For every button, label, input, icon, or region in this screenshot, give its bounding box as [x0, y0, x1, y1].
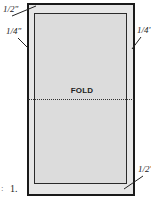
- step-prefix: :: [1, 183, 4, 193]
- measurement-top-left: 1/2": [3, 5, 18, 14]
- measurement-right: 1/4': [137, 26, 150, 35]
- measurement-left: 1/4": [6, 27, 21, 36]
- leader-lines: [0, 0, 151, 200]
- measurement-bottom-right: 1/2': [138, 165, 151, 174]
- step-number: 1.: [10, 183, 18, 194]
